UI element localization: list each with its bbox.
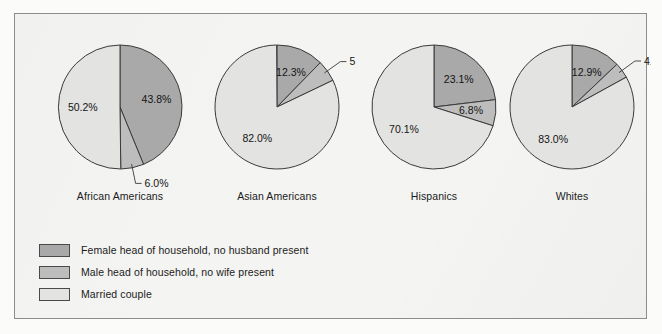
legend-swatch — [39, 244, 70, 257]
chart-legend: Female head of household, no husband pre… — [39, 239, 459, 305]
slice-value-label: 83.0% — [538, 133, 568, 145]
legend-item: Male head of household, no wife present — [39, 261, 459, 283]
slice-value-label: 6.8% — [459, 104, 483, 116]
pie-chart: 23.1%6.8%70.1%Hispanics — [355, 32, 513, 212]
pie-graphic: 43.8%6.0%50.2% — [41, 32, 199, 192]
pie-graphic: 12.9%4.1%83.0% — [493, 32, 651, 192]
pie-graphic: 23.1%6.8%70.1% — [355, 32, 513, 192]
legend-item-label: Married couple — [81, 288, 152, 300]
slice-value-label: 12.9% — [572, 66, 602, 78]
pie-chart-caption: African Americans — [41, 190, 199, 202]
pie-chart: 43.8%6.0%50.2%African Americans — [41, 32, 199, 212]
slice-value-label: 50.2% — [68, 101, 98, 113]
pie-chart: 12.3%5.6%82.0%Asian Americans — [198, 32, 356, 212]
slice-value-label: 6.0% — [145, 177, 169, 189]
slice-value-label: 70.1% — [389, 123, 419, 135]
slice-value-label: 23.1% — [444, 73, 474, 85]
slice-value-label: 82.0% — [242, 132, 272, 144]
slice-value-label: 4.1% — [644, 55, 651, 67]
pie-chart: 12.9%4.1%83.0%Whites — [493, 32, 651, 212]
pie-graphic: 12.3%5.6%82.0% — [198, 32, 356, 192]
legend-item: Married couple — [39, 283, 459, 305]
pie-chart-row: 43.8%6.0%50.2%African Americans12.3%5.6%… — [15, 32, 648, 212]
legend-swatch — [39, 288, 70, 301]
pie-chart-caption: Whites — [493, 190, 651, 202]
figure-frame: 43.8%6.0%50.2%African Americans12.3%5.6%… — [14, 13, 647, 319]
chart-figure: 43.8%6.0%50.2%African Americans12.3%5.6%… — [0, 0, 662, 334]
slice-value-label: 12.3% — [276, 66, 306, 78]
legend-item-label: Female head of household, no husband pre… — [81, 244, 308, 256]
pie-chart-caption: Hispanics — [355, 190, 513, 202]
pie-chart-caption: Asian Americans — [198, 190, 356, 202]
slice-value-label: 43.8% — [142, 93, 172, 105]
legend-item: Female head of household, no husband pre… — [39, 239, 459, 261]
legend-item-label: Male head of household, no wife present — [81, 266, 274, 278]
legend-swatch — [39, 266, 70, 279]
